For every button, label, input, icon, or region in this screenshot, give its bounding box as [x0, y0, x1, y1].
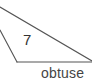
triangle-shape [0, 7, 92, 62]
shape-number-label: 7 [23, 32, 31, 47]
triangle-left-edge [0, 30, 17, 62]
triangle-type-caption: obtuse [41, 66, 84, 80]
triangle-top-edge [0, 7, 92, 61]
